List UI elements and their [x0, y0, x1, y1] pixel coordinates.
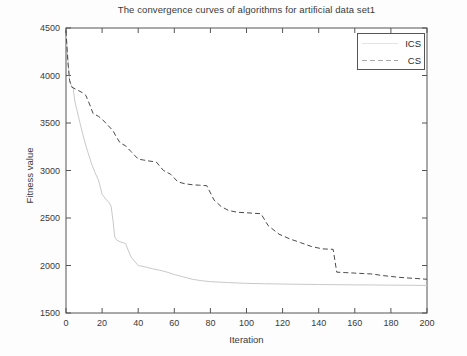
y-tick-label: 4000	[20, 71, 60, 81]
x-tick-label: 200	[419, 318, 434, 328]
x-tick-label: 0	[63, 318, 68, 328]
legend-item-cs: CS	[358, 52, 426, 69]
x-tick-label: 60	[169, 318, 179, 328]
x-tick-label: 40	[133, 318, 143, 328]
y-tick-label: 2000	[20, 261, 60, 271]
legend-label-ics: ICS	[405, 37, 421, 50]
x-tick-label: 100	[239, 318, 254, 328]
figure-canvas: The convergence curves of algorithms for…	[0, 0, 467, 356]
x-tick-label: 120	[275, 318, 290, 328]
legend-item-ics: ICS	[358, 35, 426, 52]
x-tick-label: 140	[311, 318, 326, 328]
y-tick-label: 4500	[20, 23, 60, 33]
legend-swatch-ics	[362, 43, 398, 44]
x-tick-label: 80	[205, 318, 215, 328]
y-tick-label: 3500	[20, 118, 60, 128]
legend: ICS CS	[357, 33, 425, 70]
x-tick-label: 20	[97, 318, 107, 328]
x-tick-label: 180	[383, 318, 398, 328]
y-tick-label: 1500	[20, 308, 60, 318]
x-axis-label: Iteration	[66, 334, 427, 345]
legend-label-cs: CS	[408, 54, 421, 67]
x-tick-label: 160	[347, 318, 362, 328]
legend-swatch-cs	[362, 60, 398, 61]
axes-frame	[66, 28, 427, 313]
y-axis-label: Fitness value	[24, 131, 35, 221]
